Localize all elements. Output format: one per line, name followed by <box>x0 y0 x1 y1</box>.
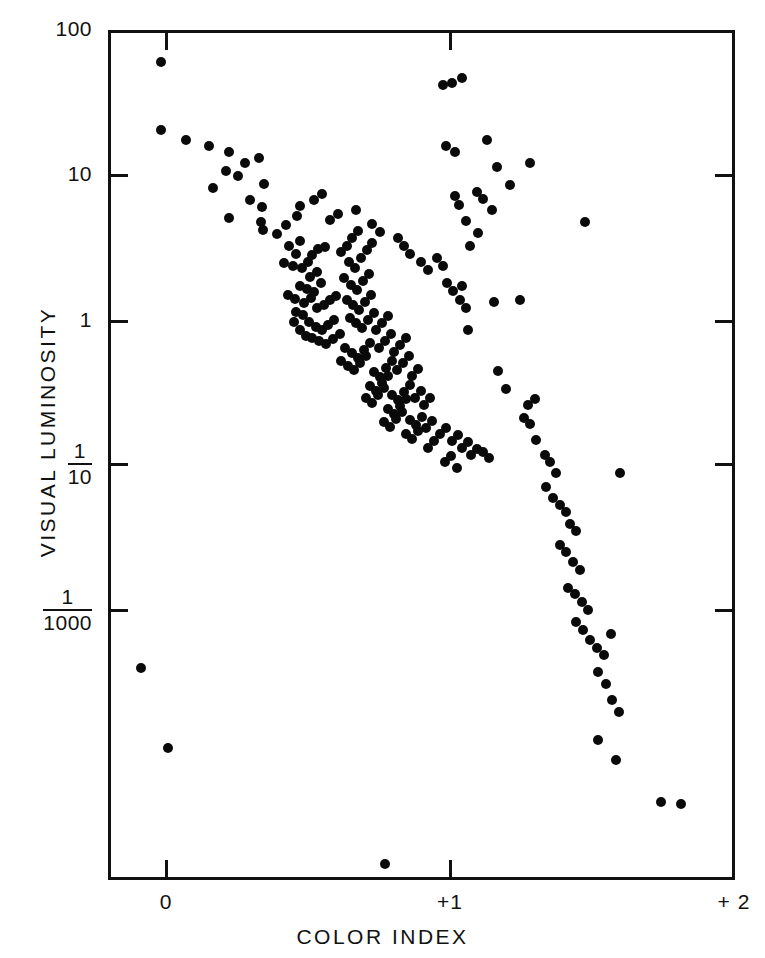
y-axis-tick-right <box>715 463 735 466</box>
scatter-figure: 100101110110000+1+ 2 COLOR INDEX VISUAL … <box>0 0 765 958</box>
x-axis-tick-label: 0 <box>106 890 226 914</box>
x-axis-tick-label: + 2 <box>674 890 765 914</box>
y-axis-tick-label: 10 <box>0 163 106 184</box>
y-axis-tick <box>108 320 128 323</box>
x-axis-tick <box>449 860 452 880</box>
x-axis-tick <box>165 860 168 880</box>
y-axis-tick-right <box>715 174 735 177</box>
plot-frame <box>108 30 735 880</box>
x-axis-title: COLOR INDEX <box>0 925 765 949</box>
x-axis-tick-top <box>165 30 168 50</box>
y-axis-tick <box>108 463 128 466</box>
x-axis-tick-label: +1 <box>390 890 510 914</box>
y-axis-tick <box>108 174 128 177</box>
y-axis-tick-right <box>715 609 735 612</box>
y-axis-tick <box>108 609 128 612</box>
x-axis-tick-top <box>449 30 452 50</box>
y-axis-title: VISUAL LUMINOSITY <box>36 232 60 632</box>
y-axis-tick-right <box>715 320 735 323</box>
y-axis-tick-label: 100 <box>0 18 106 39</box>
